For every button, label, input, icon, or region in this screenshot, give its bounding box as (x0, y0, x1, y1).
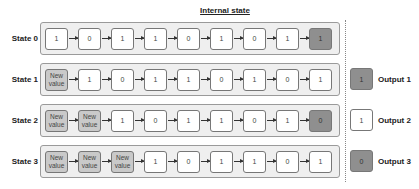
arrow-right-icon (234, 79, 243, 80)
bit-cell: 0 (309, 110, 332, 132)
bit-cell: 1 (276, 110, 299, 132)
state-container: 101101011 (40, 22, 340, 55)
bit-cell: 1 (78, 69, 101, 91)
arrow-right-icon (267, 79, 276, 80)
arrow-right-icon (168, 161, 177, 162)
arrow-right-icon (102, 79, 111, 80)
arrow-right-icon (135, 120, 144, 121)
bit-cell: 0 (78, 28, 101, 50)
output-value-box: 1 (350, 68, 373, 90)
arrow-right-icon (168, 120, 177, 121)
arrow-right-icon (135, 38, 144, 39)
arrow-right-icon (201, 161, 210, 162)
bit-cell: 1 (210, 110, 233, 132)
arrow-right-icon (69, 120, 78, 121)
bit-cell: 1 (309, 151, 332, 173)
state-container: NewvalueNewvalueNewvalue101101 (40, 145, 340, 178)
bit-cell: 1 (243, 151, 266, 173)
bit-cell: 1 (210, 151, 233, 173)
state-label: State 3 (0, 157, 38, 166)
arrow-right-icon (300, 38, 309, 39)
new-value-cell: Newvalue (45, 69, 68, 91)
bit-cell: 1 (309, 69, 332, 91)
new-value-cell: Newvalue (78, 151, 101, 173)
bit-cell: 0 (276, 151, 299, 173)
bit-cell: 1 (276, 28, 299, 50)
arrow-right-icon (267, 38, 276, 39)
bit-cell: 1 (177, 69, 200, 91)
arrow-right-icon (102, 161, 111, 162)
arrow-right-icon (102, 120, 111, 121)
bit-cell: 1 (144, 151, 167, 173)
arrow-right-icon (201, 38, 210, 39)
bit-cell: 1 (144, 69, 167, 91)
arrow-right-icon (135, 161, 144, 162)
divider-line (345, 20, 346, 182)
output-label: Output 3 (378, 157, 411, 166)
state-label: State 2 (0, 116, 38, 125)
bit-cell: 1 (210, 28, 233, 50)
output-value-box: 0 (350, 150, 373, 172)
state-label: State 0 (0, 34, 38, 43)
arrow-right-icon (69, 161, 78, 162)
output-value-box: 1 (350, 109, 373, 131)
bit-cell: 0 (243, 28, 266, 50)
arrow-right-icon (102, 38, 111, 39)
state-label: State 1 (0, 75, 38, 84)
arrow-right-icon (135, 79, 144, 80)
bit-cell: 1 (177, 110, 200, 132)
arrow-right-icon (234, 161, 243, 162)
arrow-right-icon (234, 38, 243, 39)
arrow-right-icon (267, 161, 276, 162)
state-container: Newvalue10110101 (40, 63, 340, 96)
new-value-cell: Newvalue (111, 151, 134, 173)
bit-cell: 1 (309, 28, 332, 50)
arrow-right-icon (267, 120, 276, 121)
new-value-cell: Newvalue (78, 110, 101, 132)
arrow-right-icon (168, 79, 177, 80)
output-label: Output 1 (378, 75, 411, 84)
bit-cell: 1 (111, 110, 134, 132)
bit-cell: 1 (111, 28, 134, 50)
arrow-right-icon (69, 79, 78, 80)
arrow-right-icon (201, 79, 210, 80)
arrow-right-icon (300, 161, 309, 162)
arrow-right-icon (234, 120, 243, 121)
arrow-right-icon (69, 38, 78, 39)
new-value-cell: Newvalue (45, 151, 68, 173)
new-value-cell: Newvalue (45, 110, 68, 132)
arrow-right-icon (300, 120, 309, 121)
bit-cell: 0 (243, 110, 266, 132)
bit-cell: 0 (177, 151, 200, 173)
arrow-right-icon (168, 38, 177, 39)
bit-cell: 0 (111, 69, 134, 91)
diagram-title: Internal state (190, 6, 260, 15)
bit-cell: 0 (276, 69, 299, 91)
bit-cell: 0 (177, 28, 200, 50)
state-container: NewvalueNewvalue1011010 (40, 104, 340, 137)
bit-cell: 0 (210, 69, 233, 91)
bit-cell: 0 (144, 110, 167, 132)
bit-cell: 1 (243, 69, 266, 91)
arrow-right-icon (300, 79, 309, 80)
bit-cell: 1 (144, 28, 167, 50)
arrow-right-icon (201, 120, 210, 121)
bit-cell: 1 (45, 28, 68, 50)
output-label: Output 2 (378, 116, 411, 125)
